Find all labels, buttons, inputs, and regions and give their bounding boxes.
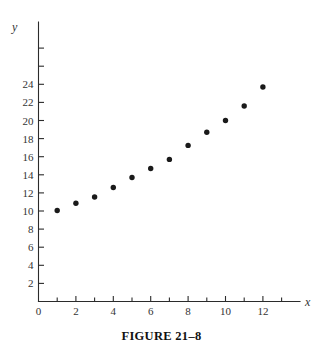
- x-axis-tick-label: 12: [257, 305, 268, 317]
- y-axis-tick-label: 6: [28, 241, 34, 253]
- data-point: [204, 130, 209, 135]
- data-point: [129, 175, 134, 180]
- y-axis-tick-label: 22: [23, 96, 34, 108]
- data-point: [92, 194, 97, 199]
- data-point: [185, 143, 190, 148]
- scatter-plot: 24681012141618202224024681012 y x: [0, 0, 323, 354]
- data-point: [242, 103, 247, 108]
- data-point: [260, 84, 265, 89]
- y-axis-tick-label: 12: [23, 187, 34, 199]
- data-point: [73, 201, 78, 206]
- figure-container: 24681012141618202224024681012 y x FIGURE…: [0, 0, 323, 354]
- y-axis-tick-label: 18: [23, 133, 35, 145]
- data-points-group: [55, 84, 266, 213]
- x-axis-label: x: [304, 295, 311, 309]
- axis-tick-labels-group: 24681012141618202224024681012: [23, 78, 269, 316]
- y-axis-tick-label: 2: [28, 277, 34, 289]
- data-point: [167, 157, 172, 162]
- data-point: [55, 208, 60, 213]
- x-axis-tick-label: 10: [220, 305, 232, 317]
- data-point: [111, 185, 116, 190]
- y-axis-label: y: [11, 20, 18, 34]
- figure-caption: FIGURE 21–8: [0, 329, 323, 344]
- x-axis-tick-label: 2: [73, 305, 79, 317]
- y-axis-tick-label: 24: [23, 78, 35, 90]
- x-axis-tick-label: 6: [148, 305, 154, 317]
- y-axis-tick-label: 4: [28, 259, 34, 271]
- y-axis-tick-label: 8: [28, 223, 34, 235]
- data-point: [223, 118, 228, 123]
- y-axis-tick-label: 10: [23, 205, 35, 217]
- y-axis-tick-label: 20: [23, 115, 35, 127]
- x-axis-tick-label: 4: [111, 305, 117, 317]
- data-point: [148, 166, 153, 171]
- x-axis-tick-label: 8: [185, 305, 191, 317]
- y-axis-tick-label: 14: [23, 169, 35, 181]
- axis-ticks-group: [39, 48, 282, 301]
- y-axis-tick-label: 16: [23, 151, 35, 163]
- x-axis-tick-label: 0: [36, 305, 42, 317]
